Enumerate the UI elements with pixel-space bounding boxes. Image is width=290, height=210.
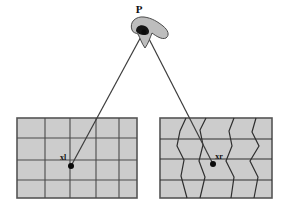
scene-point-label: P — [136, 3, 143, 15]
left-image-plane — [17, 118, 137, 198]
left-projection-point-label: xl — [60, 153, 67, 162]
figure-container: P xl xr — [0, 0, 290, 210]
right-projection-point-label: xr — [215, 152, 223, 161]
stereo-projection-diagram: P xl xr — [0, 0, 290, 210]
right-projection-point-marker — [210, 161, 216, 167]
left-projection-point-marker — [68, 163, 74, 169]
scene-point-marker — [141, 29, 146, 34]
